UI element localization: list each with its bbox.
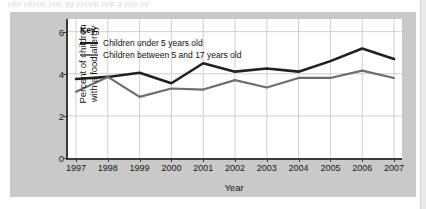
y-tick-mark (63, 32, 68, 33)
x-tick-label-2007: 2007 (384, 163, 404, 173)
page-right-edge (420, 0, 426, 209)
x-tick-label-2006: 2006 (352, 163, 372, 173)
legend-item-under-5: Children under 5 years old (80, 37, 241, 49)
x-tick-mark (267, 158, 268, 162)
x-tick-label-1998: 1998 (98, 163, 118, 173)
y-axis-label-line-2: with a food allergy (88, 4, 99, 124)
chart-legend: Key Children under 5 years old Children … (80, 24, 241, 61)
x-tick-mark (330, 158, 331, 162)
y-tick-mark (63, 74, 68, 75)
x-tick-mark (203, 158, 204, 162)
x-tick-label-2002: 2002 (225, 163, 245, 173)
y-tick-mark (63, 116, 68, 117)
x-tick-label-2005: 2005 (320, 163, 340, 173)
legend-item-5-to-17: Children between 5 and 17 years old (80, 49, 241, 61)
x-tick-mark (171, 158, 172, 162)
screenshot-root: ppp ppppp ppp gg ppppp ppp g ppp pp 0246… (0, 0, 426, 209)
legend-label-5-to-17: Children between 5 and 17 years old (103, 49, 241, 61)
y-tick-mark (63, 158, 68, 159)
x-axis-label: Year (66, 182, 402, 193)
x-tick-label-2004: 2004 (289, 163, 309, 173)
legend-line-icon-dark (80, 42, 98, 44)
x-tick-mark (362, 158, 363, 162)
x-tick-label-1997: 1997 (66, 163, 86, 173)
x-tick-mark (299, 158, 300, 162)
x-tick-mark (235, 158, 236, 162)
legend-label-under-5: Children under 5 years old (103, 37, 203, 49)
x-tick-mark (394, 158, 395, 162)
legend-title: Key (80, 24, 241, 36)
x-tick-label-2000: 2000 (161, 163, 181, 173)
page-bleed-text: ppp ppppp ppp gg ppppp ppp g ppp pp (8, 0, 408, 9)
x-tick-label-2001: 2001 (193, 163, 213, 173)
x-tick-label-1999: 1999 (130, 163, 150, 173)
y-axis-label-line-1: Percent of children (77, 4, 88, 124)
x-tick-label-2003: 2003 (257, 163, 277, 173)
plot-area: 0246 19971998199920002001200220032004200… (66, 19, 402, 160)
x-tick-mark (76, 158, 77, 162)
figure-panel: 0246 19971998199920002001200220032004200… (10, 12, 416, 197)
y-axis-label: Percent of children with a food allergy (77, 4, 107, 124)
legend-line-icon-grey (80, 54, 98, 56)
x-tick-mark (140, 158, 141, 162)
x-tick-mark (108, 158, 109, 162)
